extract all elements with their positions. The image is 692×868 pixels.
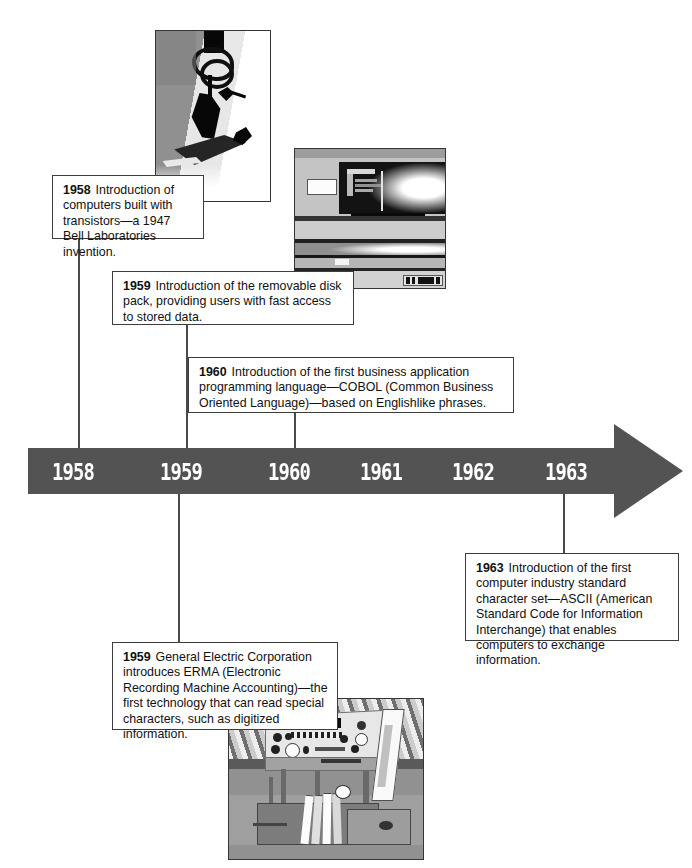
timeline-arrowhead — [614, 424, 683, 518]
timeline-year-1958: 1958 — [52, 461, 94, 484]
timeline-bar — [28, 448, 622, 494]
timeline-year-1959: 1959 — [160, 461, 202, 484]
connector-1960 — [294, 413, 296, 448]
callout-year: 1959 — [123, 650, 151, 664]
connector-1959-erma — [178, 494, 180, 642]
callout-text: Introduction of the first computer indus… — [476, 561, 652, 667]
timeline-year-1963: 1963 — [545, 461, 587, 484]
photo-disk-drive — [294, 148, 446, 289]
callout-year: 1963 — [476, 561, 504, 575]
timeline-figure: ERMA — [0, 0, 692, 868]
callout-1959-diskpack: 1959Introduction of the removable disk p… — [112, 271, 354, 325]
ibm-badge — [403, 275, 443, 286]
callout-text: Introduction of the first business appli… — [199, 365, 493, 410]
callout-1959-erma: 1959General Electric Corporation introdu… — [112, 642, 338, 730]
callout-1958-transistors: 1958Introduction of computers built with… — [52, 175, 204, 239]
callout-1963-ascii: 1963Introduction of the first computer i… — [465, 553, 679, 641]
connector-1958 — [78, 238, 80, 448]
callout-1960-cobol: 1960Introduction of the first business a… — [188, 357, 514, 413]
timeline-year-1961: 1961 — [360, 461, 402, 484]
callout-year: 1959 — [123, 279, 151, 293]
callout-year: 1958 — [63, 183, 91, 197]
timeline-year-1962: 1962 — [452, 461, 494, 484]
timeline-year-1960: 1960 — [268, 461, 310, 484]
callout-year: 1960 — [199, 365, 227, 379]
connector-1963 — [563, 494, 565, 553]
callout-text: Introduction of the removable disk pack,… — [123, 279, 342, 324]
callout-text: General Electric Corporation introduces … — [123, 650, 328, 741]
